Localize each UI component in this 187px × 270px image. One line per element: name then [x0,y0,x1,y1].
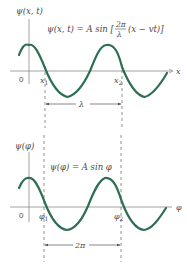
phi2-label: φ2 [114,212,124,222]
top-equation-rhs: (x − vt)] [128,24,164,34]
x1-label: x1 [40,76,48,86]
phi1-label: φ1 [39,212,48,222]
top-y-axis-label: ψ(x, t) [16,6,43,16]
top-panel: ψ(x, t) ψ(x, t) = A sin [ 2π λ (x − vt)]… [10,6,181,128]
bottom-equation: ψ(φ) = A sin φ [50,162,112,172]
bottom-origin-label: 0 [19,211,24,220]
top-equation-frac-den: λ [116,30,122,39]
wave-diagram: ψ(x, t) ψ(x, t) = A sin [ 2π λ (x − vt)]… [0,0,187,270]
top-equation-frac-num: 2π [115,20,127,29]
two-pi-label: 2π [74,241,86,250]
bottom-panel: ψ(φ) ψ(φ) = A sin φ 0 φ φ1 φ2 2π [10,135,182,262]
lambda-label: λ [78,100,84,109]
top-x-axis-label: x [176,67,181,76]
top-equation-lhs: ψ(x, t) = A sin [ [47,24,115,34]
bottom-y-axis-label: ψ(φ) [15,141,34,151]
bottom-x-axis-label: φ [176,203,182,212]
bottom-sine-wave [19,178,166,230]
x2-label: x2 [114,76,123,86]
top-origin-label: 0 [19,75,24,84]
